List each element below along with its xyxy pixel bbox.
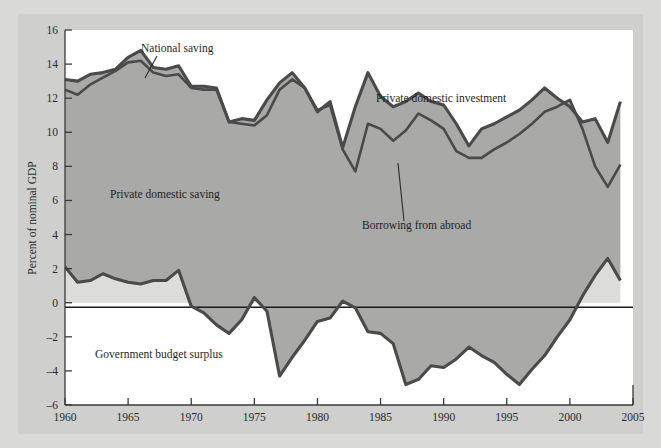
annotation-borrowing-from-abroad-label: Borrowing from abroad	[362, 219, 471, 232]
annotation-private-domestic-investment: Private domestic investment	[376, 92, 507, 104]
y-tick-label: 10	[47, 126, 59, 138]
x-tick-label: 1975	[243, 411, 266, 423]
y-tick-label: 4	[52, 229, 58, 241]
y-tick-label: 0	[52, 297, 58, 309]
x-tick-label: 1960	[54, 411, 77, 423]
y-tick-label: 12	[47, 92, 59, 104]
x-tick-label: 1985	[369, 411, 392, 423]
x-tick-label: 1965	[117, 411, 140, 423]
y-tick-label: –6	[46, 399, 59, 411]
annotation-national-saving-label: National saving	[141, 42, 214, 55]
x-tick-label: 1980	[306, 411, 329, 423]
x-tick-label: 1970	[180, 411, 203, 423]
figure-root: 1614121086420–2–4–6 19601965197019751980…	[0, 0, 661, 448]
y-tick-label: –2	[46, 331, 59, 343]
x-tick-label: 1990	[432, 411, 455, 423]
annotation-private-domestic-saving: Private domestic saving	[110, 188, 220, 201]
annotation-government-budget-surplus: Government budget surplus	[95, 348, 223, 361]
y-tick-label: 16	[47, 24, 59, 36]
y-tick-label: –4	[46, 365, 59, 377]
x-tick-label: 2000	[558, 411, 581, 423]
annotation-private-domestic-investment-label: Private domestic investment	[376, 92, 507, 104]
y-tick-label: 14	[47, 58, 59, 70]
y-tick-label: 6	[52, 194, 58, 206]
chart-svg: 1614121086420–2–4–6 19601965197019751980…	[0, 0, 661, 448]
x-tick-label: 1995	[495, 411, 518, 423]
y-axis-title: Percent of nominal GDP	[26, 161, 38, 274]
x-tick-labels: 1960196519701975198019851990199520002005	[54, 411, 645, 423]
y-tick-label: 8	[52, 160, 58, 172]
y-tick-labels: 1614121086420–2–4–6	[46, 24, 59, 411]
annotation-private-domestic-saving-label: Private domestic saving	[110, 188, 220, 201]
x-tick-label: 2005	[622, 411, 645, 423]
annotation-government-budget-surplus-label: Government budget surplus	[95, 348, 223, 361]
y-tick-label: 2	[52, 263, 58, 275]
